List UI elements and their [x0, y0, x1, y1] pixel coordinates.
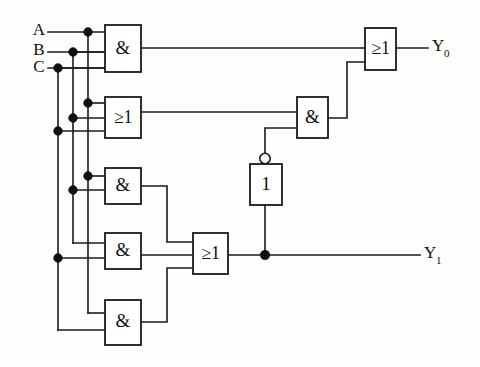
junction-dot [54, 127, 63, 136]
gate2-input-wires [58, 103, 105, 131]
gate5-input-wires [58, 313, 105, 330]
gate-or-6-symbol: ≥1 [202, 243, 220, 263]
wire-gate3-to-gate6 [141, 186, 193, 242]
gate-and-5-symbol: & [116, 310, 131, 331]
gate-and-3: & [105, 168, 141, 204]
gate4-input-wires [58, 243, 105, 258]
gate-or-2: ≥1 [105, 97, 141, 138]
gate-and-8-symbol: & [305, 106, 320, 127]
gate-bodies: & ≥1 & & & [105, 25, 396, 345]
gate-and-3-symbol: & [116, 174, 131, 195]
inverter-bubble-icon [260, 153, 270, 163]
gate-and-4-symbol: & [116, 239, 131, 260]
gate1-input-wires [58, 52, 105, 68]
wire-gate8-to-gate9 [328, 62, 365, 118]
gate-and-5: & [105, 300, 141, 345]
circuit-schematic: & ≥1 & & & [0, 0, 480, 367]
junction-dot [84, 172, 93, 181]
junction-dot [54, 64, 63, 73]
output-label-y1: Y [424, 243, 436, 262]
gate-or-6: ≥1 [193, 233, 228, 274]
junction-dot [69, 114, 78, 123]
gate-and-1-symbol: & [116, 37, 131, 58]
junction-dots [54, 28, 270, 263]
gate-or-9-symbol: ≥1 [372, 38, 390, 58]
input-label-a: A [33, 20, 46, 39]
output-label-y0: Y [432, 36, 444, 55]
junction-dot [69, 48, 78, 57]
input-wires [48, 32, 105, 330]
junction-dot [69, 186, 78, 195]
gate-or-9: ≥1 [365, 28, 396, 70]
gate-and-8: & [297, 97, 328, 138]
output-subscript-y0: 0 [444, 47, 450, 59]
output-subscript-y1: 1 [436, 254, 442, 266]
junction-dot [54, 254, 63, 263]
interconnect-wires [141, 48, 428, 322]
logic-diagram-canvas: & ≥1 & & & [0, 0, 480, 367]
wire-inverter-to-gate8 [265, 128, 297, 153]
gate-and-4: & [105, 233, 141, 269]
gate-and-1: & [105, 25, 141, 72]
junction-dot [84, 28, 93, 37]
junction-dot [84, 99, 93, 108]
gate-not-7: 1 [250, 153, 282, 205]
wire-gate5-to-gate6 [141, 268, 193, 322]
junction-dot [260, 250, 270, 260]
input-label-c: C [33, 57, 44, 76]
gate-not-7-symbol: 1 [261, 173, 271, 194]
gate-or-2-symbol: ≥1 [114, 107, 132, 127]
